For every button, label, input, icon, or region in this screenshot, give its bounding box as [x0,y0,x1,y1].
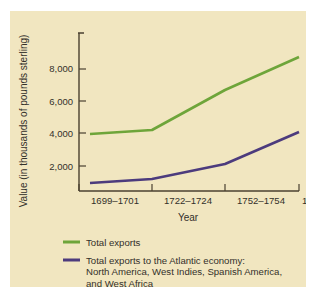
y-tick-label-6000: 6,000 [49,96,73,107]
x-axis-title: Year [178,212,199,223]
legend-label-total-exports: Total exports [86,237,141,248]
legend-label-atlantic-economy-line2: North America, West Indies, Spanish Amer… [86,266,282,277]
y-axis-title: Value (in thousands of pounds sterling) [18,35,29,208]
legend-label-atlantic-economy-line3: and West Africa [86,278,154,288]
x-tick-label-3: 1772–1774 [302,195,306,206]
y-tick-label-4000: 4,000 [49,128,73,139]
line-chart: Value (in thousands of pounds sterling) … [10,11,306,287]
chart-legend: Total exports Total exports to the Atlan… [63,237,282,288]
x-tick-label-2: 1752–1754 [237,195,286,206]
x-tick-label-0: 1699–1701 [91,195,139,206]
y-tick-label-8000: 8,000 [49,63,73,74]
series-line-atlantic-economy [90,132,299,183]
series-line-total-exports [90,57,299,134]
chart-figure: Value (in thousands of pounds sterling) … [10,11,306,287]
y-axis-line [78,33,84,191]
x-tick-label-1: 1722–1724 [164,195,213,206]
legend-label-atlantic-economy-line1: Total exports to the Atlantic economy: [86,255,245,266]
y-tick-label-2000: 2,000 [49,161,73,172]
